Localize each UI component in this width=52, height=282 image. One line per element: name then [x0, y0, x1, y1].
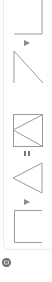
- frame-thumbnail-2[interactable]: [0, 48, 52, 88]
- wedge-shape-icon: [0, 48, 52, 88]
- frame-thumbnail-1[interactable]: [0, 0, 52, 38]
- circle-badge-icon[interactable]: [2, 258, 11, 267]
- play-icon: [23, 198, 31, 206]
- triangle-shape-icon: [0, 160, 52, 198]
- frame-thumbnail-3[interactable]: [0, 110, 52, 150]
- animation-strip: [0, 0, 52, 282]
- play-button[interactable]: [23, 198, 31, 206]
- pause-button[interactable]: [23, 150, 31, 157]
- corner-shape-icon: [0, 0, 52, 38]
- square-chevron-shape-icon: [0, 110, 52, 150]
- pause-icon: [23, 150, 31, 157]
- frame-thumbnail-5[interactable]: [0, 207, 52, 247]
- bracket-shape-icon: [0, 207, 52, 247]
- badge-glyph-icon: [2, 258, 11, 267]
- play-icon: [23, 39, 31, 47]
- frame-thumbnail-4[interactable]: [0, 160, 52, 198]
- play-button[interactable]: [23, 39, 31, 47]
